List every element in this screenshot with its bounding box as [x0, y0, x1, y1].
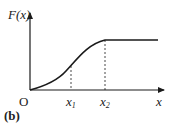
origin-label: O — [19, 94, 28, 109]
y-axis-label: F(x) — [7, 7, 30, 22]
tick-label-x2: x2 — [99, 94, 110, 110]
panel-label: (b) — [4, 108, 20, 123]
cdf-diagram: F(x) O x1 x2 x (b) — [0, 0, 171, 124]
cdf-curve — [30, 40, 158, 90]
x-axis-label: x — [155, 94, 162, 109]
tick-label-x1: x1 — [65, 94, 76, 110]
